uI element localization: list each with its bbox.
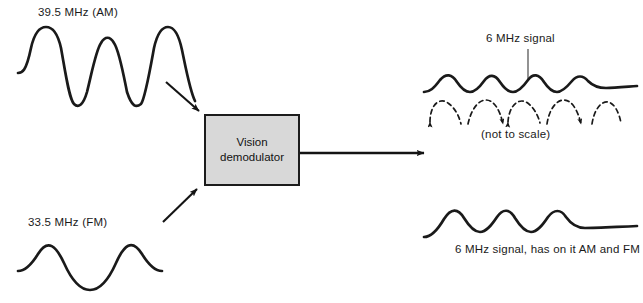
output-top-waveform	[424, 75, 637, 92]
vision-demodulator-diagram: Vision demodulator 39.5 MHz (AM) 33.5 MH…	[0, 0, 643, 303]
six-mhz-callout-label: 6 MHz signal	[486, 32, 555, 44]
fm-input-waveform	[18, 245, 162, 290]
vision-demodulator-block[interactable]: Vision demodulator	[204, 114, 300, 186]
block-title-line-1: Vision	[236, 135, 267, 150]
output-bottom-waveform	[424, 211, 637, 237]
fm-input-label: 33.5 MHz (FM)	[28, 216, 107, 228]
not-to-scale-note: (not to scale)	[481, 128, 550, 140]
dashed-overlay-arcs	[430, 100, 621, 124]
diagram-canvas	[0, 0, 643, 303]
arrow-fm-to-block	[163, 189, 197, 222]
am-input-label: 39.5 MHz (AM)	[38, 6, 118, 18]
block-title-line-2: demodulator	[220, 150, 284, 165]
am-input-waveform	[18, 27, 195, 106]
output-bottom-caption: 6 MHz signal, has on it AM and FM	[455, 243, 640, 255]
